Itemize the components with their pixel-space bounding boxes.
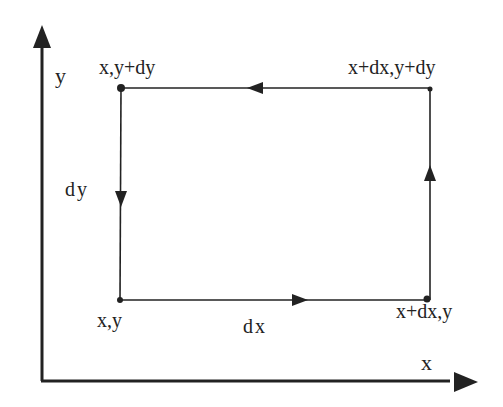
edge-label-dy: dy: [65, 178, 89, 201]
y-axis-label: y: [55, 63, 66, 88]
y-axis-arrowhead-icon: [33, 25, 51, 48]
corner-points: [117, 84, 433, 303]
point-top-right: [428, 87, 433, 92]
corner-label-top-right: x+dx,y+dy: [348, 56, 436, 79]
arrow-right-icon: [292, 294, 308, 306]
corner-label-bottom-right: x+dx,y: [396, 300, 452, 323]
labels: y x x,y+dy x+dx,y+dy x,y x+dx,y dx dy: [55, 56, 452, 375]
point-bottom-left: [117, 297, 123, 303]
arrow-down-icon: [115, 191, 127, 207]
loop-rectangle: [120, 88, 430, 300]
x-axis-label: x: [421, 350, 432, 375]
direction-arrows: [115, 82, 436, 306]
x-axis-arrowhead-icon: [454, 372, 478, 392]
arrow-left-icon: [247, 82, 263, 94]
arrow-up-icon: [424, 165, 436, 181]
corner-label-top-left: x,y+dy: [99, 56, 155, 79]
edge-label-dx: dx: [243, 315, 267, 337]
point-top-left: [117, 84, 125, 92]
corner-label-bottom-left: x,y: [97, 309, 122, 332]
loop-diagram: y x x,y+dy x+dx,y+dy x,y x+dx,y dx dy: [0, 0, 503, 407]
